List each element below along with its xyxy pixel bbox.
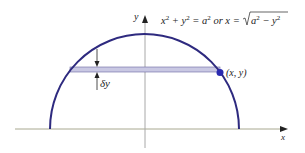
point-label: (x, y) <box>226 67 247 79</box>
equation: x2 + y2 = a2 or x = a2 − y2 <box>160 12 288 26</box>
point-marker <box>217 69 224 76</box>
up-arrow-icon <box>95 72 100 78</box>
horizontal-strip <box>70 67 220 72</box>
y-axis-arrow-icon <box>142 15 148 23</box>
y-axis-label: y <box>133 11 139 22</box>
svg-text:x2 + y2 = a2 or x =: x2 + y2 = a2 or x = <box>160 14 240 26</box>
down-arrow-icon <box>95 61 100 67</box>
x-axis-label: x <box>280 132 285 142</box>
semicircle-diagram: δy (x, y) y x x2 + y2 = a2 or x = a2 − y… <box>0 0 305 153</box>
delta-y-label: δy <box>100 77 110 89</box>
svg-text:a2 − y2: a2 − y2 <box>251 14 281 26</box>
